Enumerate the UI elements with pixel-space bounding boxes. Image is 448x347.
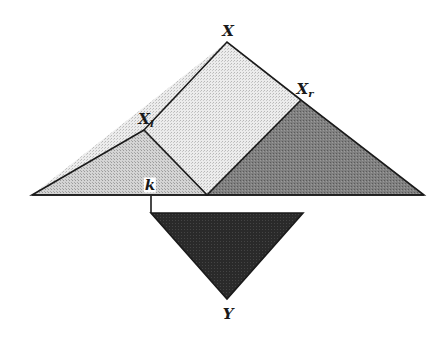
label-y: Y	[223, 307, 234, 322]
label-x-l-main: X	[138, 110, 150, 128]
label-k-text: k	[145, 176, 155, 194]
label-x: X	[222, 24, 234, 39]
label-x-r-sub: r	[308, 88, 313, 99]
label-x-text: X	[222, 22, 234, 40]
result-tree-y-triangle	[151, 213, 303, 299]
label-y-text: Y	[223, 305, 234, 323]
label-x-r: Xr	[297, 82, 314, 99]
label-k: k	[144, 178, 156, 193]
label-x-l: Xl	[138, 112, 153, 129]
tree-split-diagram: X Xl Xr k Y	[0, 0, 448, 347]
label-x-l-sub: l	[150, 118, 154, 129]
diagram-canvas	[0, 0, 448, 347]
label-x-r-main: X	[297, 80, 309, 98]
